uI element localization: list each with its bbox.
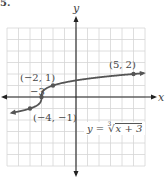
coordinate-plane	[0, 0, 165, 177]
equation-radicand: x + 3	[115, 123, 143, 134]
y-axis-down-arrow-icon	[74, 171, 79, 177]
point-label-neg2-1: (−2, 1)	[20, 73, 55, 83]
x-intercept-label: −3	[30, 87, 45, 97]
point-label-5-2: (5, 2)	[109, 60, 136, 70]
x-axis-left-arrow-icon	[1, 95, 7, 100]
problem-number: 5.	[0, 0, 10, 8]
graph-figure: 5. y x (5, 2) (−2, 1) −3 (−4, −1) y = 3√…	[0, 0, 165, 177]
equation-lhs: y =	[87, 123, 104, 134]
point-marker	[28, 106, 32, 110]
y-axis-label: y	[73, 3, 79, 14]
x-axis-label: x	[158, 92, 164, 103]
y-axis-up-arrow-icon	[74, 16, 79, 22]
radical-index: 3	[107, 120, 111, 127]
curve-left-arrow-icon	[10, 110, 16, 115]
point-marker	[131, 72, 135, 76]
x-axis-right-arrow-icon	[151, 95, 157, 100]
point-label-neg4-neg1: (−4, −1)	[33, 113, 77, 123]
point-marker	[51, 83, 55, 87]
equation-label: y = 3√x + 3	[84, 122, 145, 135]
